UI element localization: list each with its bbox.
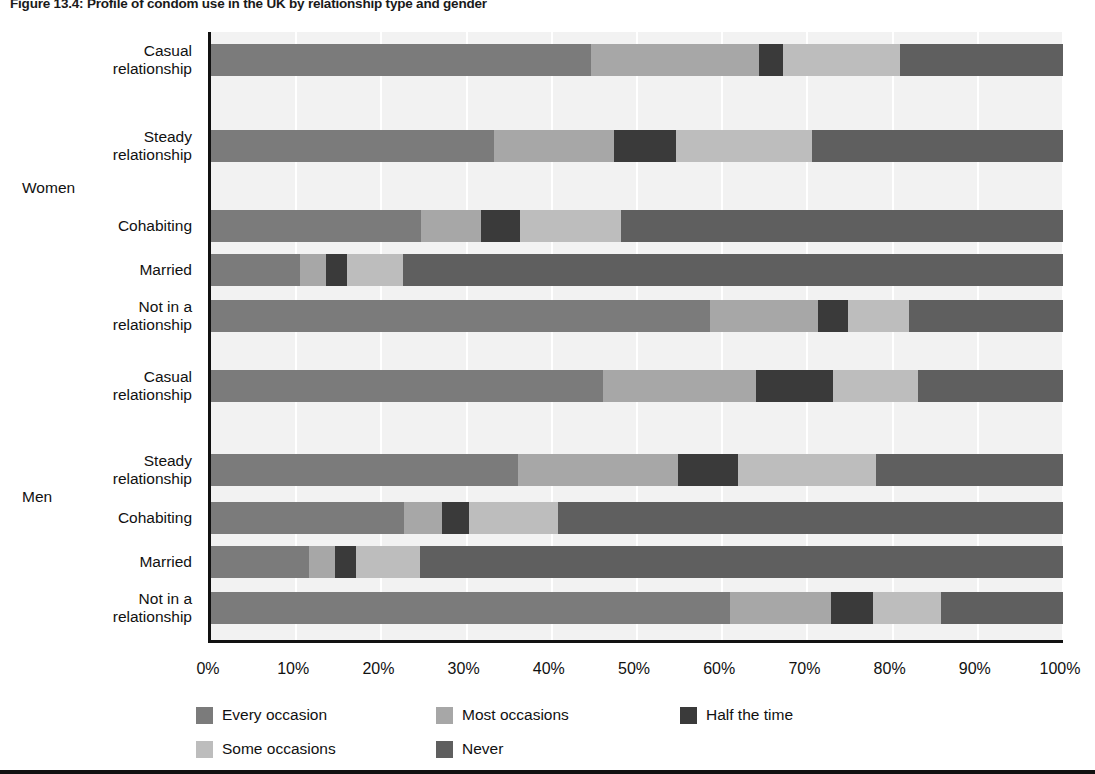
legend-item-label: Some occasions bbox=[222, 740, 336, 758]
y-axis-tick-label: Steadyrelationship bbox=[2, 128, 192, 164]
legend-item-some-occasions[interactable]: Some occasions bbox=[196, 740, 336, 758]
bar-segment-every-occasion bbox=[211, 254, 300, 286]
bar-segment-some-occasions bbox=[738, 454, 875, 486]
x-axis-tick-label: 100% bbox=[1025, 660, 1095, 678]
y-axis-tick-label: Not in arelationship bbox=[2, 590, 192, 626]
y-axis-tick-label: Married bbox=[2, 553, 192, 571]
bar-segment-half-the-time bbox=[335, 546, 356, 578]
x-axis-tick-label: 20% bbox=[343, 660, 413, 678]
bar-segment-every-occasion bbox=[211, 370, 603, 402]
x-axis-tick-label: 90% bbox=[940, 660, 1010, 678]
y-axis-tick-label: Married bbox=[2, 261, 192, 279]
bar-segment-some-occasions bbox=[833, 370, 918, 402]
bar-segment-every-occasion bbox=[211, 502, 404, 534]
bar-men-casual-relationship bbox=[211, 370, 1063, 402]
bar-segment-some-occasions bbox=[347, 254, 402, 286]
legend-swatch-icon bbox=[436, 707, 453, 724]
bar-segment-half-the-time bbox=[614, 130, 676, 162]
y-axis-tick-label: Cohabiting bbox=[2, 217, 192, 235]
group-label-men: Men bbox=[0, 488, 88, 506]
bar-segment-some-occasions bbox=[520, 210, 621, 242]
bar-segment-half-the-time bbox=[481, 210, 520, 242]
x-axis-tick-label: 10% bbox=[258, 660, 328, 678]
legend-swatch-icon bbox=[680, 707, 697, 724]
x-axis-tick-label: 80% bbox=[855, 660, 925, 678]
bar-segment-some-occasions bbox=[783, 44, 901, 76]
group-label-women: Women bbox=[0, 179, 88, 197]
legend-item-every-occasion[interactable]: Every occasion bbox=[196, 706, 327, 724]
bar-men-cohabiting bbox=[211, 502, 1063, 534]
bar-segment-every-occasion bbox=[211, 44, 591, 76]
y-axis-tick-label: Cohabiting bbox=[2, 509, 192, 527]
bar-segment-most-occasions bbox=[591, 44, 759, 76]
bar-segment-half-the-time bbox=[759, 44, 783, 76]
bar-segment-every-occasion bbox=[211, 130, 494, 162]
bar-women-married bbox=[211, 254, 1063, 286]
legend-item-label: Every occasion bbox=[222, 706, 327, 724]
bar-segment-most-occasions bbox=[710, 300, 817, 332]
bar-men-steady-relationship bbox=[211, 454, 1063, 486]
bar-women-not-in-a-relationship bbox=[211, 300, 1063, 332]
y-axis-tick-label: Casualrelationship bbox=[2, 42, 192, 78]
bar-segment-every-occasion bbox=[211, 546, 309, 578]
bar-segment-every-occasion bbox=[211, 592, 730, 624]
legend-swatch-icon bbox=[196, 707, 213, 724]
bar-segment-half-the-time bbox=[818, 300, 849, 332]
bar-segment-half-the-time bbox=[442, 502, 469, 534]
bar-segment-every-occasion bbox=[211, 210, 421, 242]
legend-swatch-icon bbox=[196, 741, 213, 758]
y-axis-tick-label: Casualrelationship bbox=[2, 368, 192, 404]
x-axis-tick-label: 60% bbox=[684, 660, 754, 678]
chart-legend: Every occasionMost occasionsHalf the tim… bbox=[196, 706, 896, 770]
bar-segment-half-the-time bbox=[831, 592, 873, 624]
bar-segment-never bbox=[918, 370, 1063, 402]
figure-title: Figure 13.4: Profile of condom use in th… bbox=[10, 0, 1090, 12]
y-axis-tick-label: Steadyrelationship bbox=[2, 452, 192, 488]
bar-segment-some-occasions bbox=[873, 592, 941, 624]
bar-segment-some-occasions bbox=[356, 546, 420, 578]
y-axis-labels: Women Men CasualrelationshipSteadyrelati… bbox=[0, 32, 200, 640]
legend-item-label: Most occasions bbox=[462, 706, 569, 724]
bar-segment-most-occasions bbox=[603, 370, 756, 402]
x-axis-tick-label: 0% bbox=[173, 660, 243, 678]
bar-segment-most-occasions bbox=[518, 454, 678, 486]
chart-plot-area bbox=[208, 32, 1063, 643]
bar-women-cohabiting bbox=[211, 210, 1063, 242]
legend-swatch-icon bbox=[436, 741, 453, 758]
bar-segment-never bbox=[900, 44, 1063, 76]
bar-segment-never bbox=[812, 130, 1063, 162]
bar-segment-never bbox=[876, 454, 1063, 486]
x-axis-tick-label: 50% bbox=[599, 660, 669, 678]
y-axis-tick-label: Not in arelationship bbox=[2, 298, 192, 334]
x-axis-tick-label: 30% bbox=[429, 660, 499, 678]
bar-segment-some-occasions bbox=[469, 502, 558, 534]
bar-men-not-in-a-relationship bbox=[211, 592, 1063, 624]
legend-item-most-occasions[interactable]: Most occasions bbox=[436, 706, 569, 724]
bar-women-casual-relationship bbox=[211, 44, 1063, 76]
bar-women-steady-relationship bbox=[211, 130, 1063, 162]
legend-item-label: Half the time bbox=[706, 706, 793, 724]
bar-segment-half-the-time bbox=[756, 370, 833, 402]
bar-segment-most-occasions bbox=[494, 130, 614, 162]
bar-segment-never bbox=[420, 546, 1063, 578]
bar-segment-never bbox=[621, 210, 1063, 242]
bottom-rule bbox=[0, 770, 1095, 774]
stacked-bars-container bbox=[211, 32, 1063, 640]
legend-item-never[interactable]: Never bbox=[436, 740, 503, 758]
bar-segment-most-occasions bbox=[300, 254, 326, 286]
bar-segment-never bbox=[909, 300, 1063, 332]
legend-item-half-the-time[interactable]: Half the time bbox=[680, 706, 793, 724]
bar-segment-some-occasions bbox=[676, 130, 811, 162]
bar-segment-every-occasion bbox=[211, 300, 710, 332]
x-axis-labels: 0%10%20%30%40%50%60%70%80%90%100% bbox=[0, 660, 1095, 684]
bar-segment-most-occasions bbox=[421, 210, 481, 242]
bar-segment-never bbox=[941, 592, 1063, 624]
bar-segment-most-occasions bbox=[730, 592, 831, 624]
bar-segment-half-the-time bbox=[678, 454, 738, 486]
bar-segment-never bbox=[403, 254, 1063, 286]
bar-segment-most-occasions bbox=[309, 546, 335, 578]
bar-segment-some-occasions bbox=[848, 300, 908, 332]
x-axis-tick-label: 40% bbox=[514, 660, 584, 678]
bar-segment-never bbox=[558, 502, 1063, 534]
bar-segment-half-the-time bbox=[326, 254, 347, 286]
